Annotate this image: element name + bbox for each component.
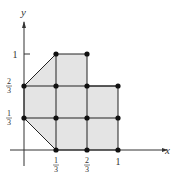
- x-tick-1-3-num: 1: [54, 156, 58, 165]
- x-tick-1: 1: [116, 156, 121, 167]
- point: [115, 147, 120, 152]
- x-tick-labels: 1 3 2 3 1: [53, 156, 121, 174]
- point: [84, 51, 89, 56]
- point: [53, 51, 58, 56]
- region-diagram: x y 1 3 2 3 1 1 2 3 1 3: [0, 0, 175, 181]
- point: [53, 115, 58, 120]
- x-tick-2-3-den: 3: [85, 165, 89, 174]
- y-axis-label: y: [20, 6, 26, 18]
- x-axis-label: x: [164, 144, 170, 156]
- y-tick-2-3-den: 3: [7, 86, 11, 95]
- x-tick-2-3-num: 2: [85, 156, 89, 165]
- point: [84, 147, 89, 152]
- y-tick-1-3-num: 1: [7, 109, 11, 118]
- point: [84, 115, 89, 120]
- y-axis-arrow-icon: [22, 21, 26, 28]
- point: [115, 115, 120, 120]
- x-tick-1-3-den: 3: [54, 165, 58, 174]
- y-tick-1: 1: [13, 49, 18, 60]
- y-tick-1-3-den: 3: [7, 118, 11, 127]
- point: [84, 83, 89, 88]
- y-tick-2-3-num: 2: [7, 77, 11, 86]
- y-tick-labels: 1 2 3 1 3: [6, 49, 18, 127]
- point: [21, 115, 26, 120]
- point: [53, 147, 58, 152]
- shaded-region: [24, 54, 118, 150]
- point: [115, 83, 120, 88]
- point: [21, 83, 26, 88]
- point: [53, 83, 58, 88]
